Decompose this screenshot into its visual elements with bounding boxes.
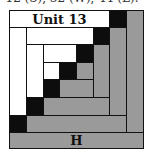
piece-center-white bbox=[43, 62, 60, 80]
unit13-strip-label: Unit 13 bbox=[32, 12, 86, 27]
piece-top-3 bbox=[43, 44, 77, 63]
h-strip-label: H bbox=[70, 133, 82, 148]
piece-right-3 bbox=[93, 44, 110, 98]
piece-corner-4 bbox=[26, 97, 44, 116]
piece-left-outer bbox=[9, 27, 27, 116]
piece-left-2 bbox=[26, 44, 44, 98]
piece-corner-6 bbox=[43, 79, 60, 98]
piece-bottom-2 bbox=[43, 97, 110, 116]
piece-bottom-outer bbox=[26, 115, 127, 133]
piece-center-black bbox=[59, 62, 77, 80]
piece-corner-2 bbox=[9, 115, 27, 133]
piece-right-outer bbox=[126, 10, 144, 133]
piece-corner-5 bbox=[76, 44, 94, 63]
piece-unit13-strip: Unit 13 bbox=[9, 10, 110, 28]
piece-right-2 bbox=[109, 27, 127, 116]
piece-top-2 bbox=[26, 27, 94, 45]
log-cabin-block-diagram: Unit 13H bbox=[9, 10, 143, 148]
figure-caption: 12 (S), 32 (W), 44 (L). bbox=[0, 0, 144, 5]
piece-corner-3 bbox=[93, 27, 110, 45]
piece-center-gray bbox=[76, 62, 94, 80]
piece-bottom-3 bbox=[59, 79, 94, 98]
piece-corner-1 bbox=[109, 10, 127, 28]
piece-h-strip: H bbox=[9, 132, 144, 149]
